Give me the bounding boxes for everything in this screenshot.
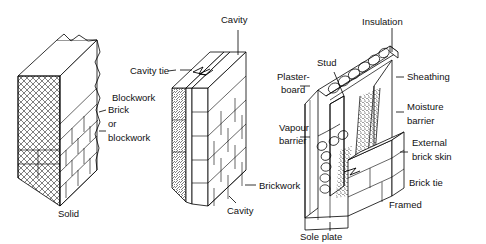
leader-blockwork [168, 70, 176, 71]
figure-canvas: Brick or blockwork Solid Cavity Cavity t… [0, 0, 486, 244]
framed-brick-skin-side [392, 132, 404, 196]
label-sheathing: Sheathing [407, 71, 450, 82]
label-external-line2: brick skin [412, 151, 452, 162]
cavity-outer-leaf-end [192, 88, 208, 206]
wall-construction-figure: Brick or blockwork Solid Cavity Cavity t… [0, 0, 486, 244]
solid-wall-drawing [18, 34, 100, 206]
label-cavity-tie: Cavity tie [130, 65, 169, 76]
label-stud: Stud [317, 57, 337, 68]
solid-leader-lines [99, 110, 106, 131]
label-blockwork-alt: blockwork [108, 132, 150, 143]
leader-brick-blockwork-a [99, 110, 106, 112]
label-blockwork: Blockwork [112, 92, 156, 103]
solid-end-face-hatched [18, 76, 60, 206]
label-vapour-line2: barrier [279, 135, 306, 146]
label-brick: Brick [108, 104, 129, 115]
cavity-inner-leaf-end [172, 88, 186, 202]
label-vapour-line1: Vapour [279, 122, 309, 133]
label-moisture-line1: Moisture [407, 101, 443, 112]
label-brickwork: Brickwork [259, 180, 300, 191]
label-sole-plate: Sole plate [300, 231, 342, 242]
framed-sole-plate [305, 216, 348, 230]
label-framed-caption: Framed [389, 199, 422, 210]
label-insulation: Insulation [362, 16, 403, 27]
leader-cavity-bottom [229, 196, 236, 203]
label-brick-tie: Brick tie [409, 177, 443, 188]
label-cavity-top: Cavity [221, 14, 248, 25]
cavity-gap-end [186, 88, 192, 204]
label-cavity-bottom: Cavity [227, 205, 254, 216]
label-plasterboard-line2: board [281, 84, 305, 95]
label-external-line1: External [412, 137, 447, 148]
label-solid-caption: Solid [58, 208, 79, 219]
label-or: or [108, 118, 116, 129]
framed-plasterboard-sheet [305, 90, 318, 218]
label-moisture-line2: barrier [407, 115, 434, 126]
label-plasterboard-line1: Plaster- [277, 71, 310, 82]
cavity-wall-drawing [172, 52, 246, 206]
